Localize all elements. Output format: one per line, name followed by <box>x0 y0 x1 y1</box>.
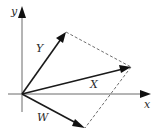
vector-x <box>22 65 131 94</box>
y-axis-arrowhead-icon <box>18 6 26 18</box>
vector-w-arrowhead-icon <box>72 119 85 128</box>
vector-w-shaft <box>22 94 78 124</box>
x-axis-arrowhead-icon <box>140 90 151 98</box>
vector-w-label: W <box>37 111 50 124</box>
vector-diagram: x y Y X W <box>0 0 160 136</box>
dashed-edge-y-to-x <box>66 32 131 67</box>
vector-y-arrowhead-icon <box>56 32 66 43</box>
y-axis-label: y <box>10 5 18 18</box>
axes: x y <box>8 5 151 112</box>
vector-x-label: X <box>89 78 99 91</box>
vector-w <box>22 94 85 128</box>
vector-y-label: Y <box>36 42 45 55</box>
x-axis-label: x <box>144 98 151 111</box>
